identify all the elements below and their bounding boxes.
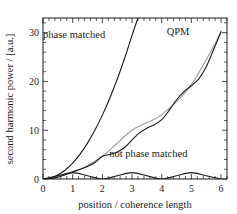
x-tick-label: 5 <box>189 183 194 194</box>
y-tick-label: 30 <box>29 27 39 38</box>
y-axis-title: second harmonic power / [a.u.] <box>4 34 15 165</box>
y-tick-label: 20 <box>29 76 39 87</box>
x-tick-label: 4 <box>159 183 164 194</box>
y-tick-label: 0 <box>34 174 39 185</box>
x-tick-label: 6 <box>219 183 224 194</box>
second-harmonic-power-chart: 0123456 0102030 phase matchedQPMnot phas… <box>0 0 237 214</box>
x-tick-label: 1 <box>70 183 75 194</box>
annotation-not-phase-matched: not phase matched <box>109 148 188 159</box>
annotation-qpm: QPM <box>167 26 190 37</box>
figure-container: 0123456 0102030 phase matchedQPMnot phas… <box>0 0 237 214</box>
x-axis-title: position / coherence length <box>78 199 192 210</box>
x-tick-label: 2 <box>100 183 105 194</box>
annotation-phase-matched: phase matched <box>43 29 106 40</box>
x-tick-label: 3 <box>130 183 135 194</box>
y-tick-label: 10 <box>29 125 39 136</box>
x-tick-label: 0 <box>41 183 46 194</box>
